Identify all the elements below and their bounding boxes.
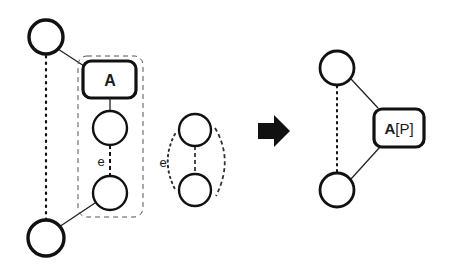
inner-node-top — [93, 111, 127, 145]
node-ap-label-main: A — [384, 120, 395, 137]
transformation-arrow-icon — [258, 115, 290, 147]
graph-transformation-diagram: A e e A[P] — [0, 0, 453, 269]
outer-node-top — [29, 20, 63, 54]
node-a-label: A — [104, 72, 116, 89]
edge-bottom-to-node — [59, 203, 95, 227]
right-graph: A[P] — [320, 51, 424, 207]
inner-node-bottom — [93, 176, 127, 210]
dotted-arc-e — [168, 134, 176, 191]
dashed-arc — [215, 128, 225, 196]
node-ap-label: A[P] — [384, 120, 413, 137]
node-ap-label-param: [P] — [395, 120, 413, 137]
outer-node-bottom — [28, 220, 64, 256]
middle-graph: e — [159, 114, 224, 206]
left-graph: A e — [28, 20, 143, 256]
right-node-bottom — [320, 173, 354, 207]
edge-top-to-a — [58, 49, 84, 66]
edge-e-label: e — [97, 154, 104, 169]
middle-node-top — [179, 114, 211, 146]
middle-edge-e-label: e — [159, 155, 166, 170]
middle-node-bottom — [179, 174, 211, 206]
edge-top-to-ap — [351, 79, 378, 108]
right-node-top — [320, 51, 354, 85]
edge-bottom-to-ap — [351, 147, 380, 179]
